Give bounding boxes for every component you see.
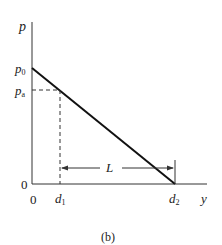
y-tick-zero: 0 xyxy=(21,178,28,191)
dimension-label: L xyxy=(106,161,113,174)
y-axis-label: p xyxy=(19,20,26,34)
x-tick-d2: d2 xyxy=(169,192,180,207)
x-tick-d1-sub: 1 xyxy=(62,198,66,207)
y-tick-pa-sub: a xyxy=(22,90,26,99)
arrowhead-right-icon xyxy=(167,166,174,171)
pressure-line xyxy=(32,68,175,184)
y-tick-p0: p0 xyxy=(15,62,26,77)
y-tick-pa: pa xyxy=(15,84,25,99)
x-axis-label: y xyxy=(201,192,207,205)
x-tick-d1: d1 xyxy=(55,192,66,207)
x-tick-zero: 0 xyxy=(30,193,37,206)
x-tick-d2-sub: 2 xyxy=(176,198,180,207)
arrowhead-left-icon xyxy=(61,166,68,171)
y-tick-p0-sub: 0 xyxy=(22,68,26,77)
diagram-canvas xyxy=(0,0,222,245)
figure-caption: (b) xyxy=(101,231,115,243)
